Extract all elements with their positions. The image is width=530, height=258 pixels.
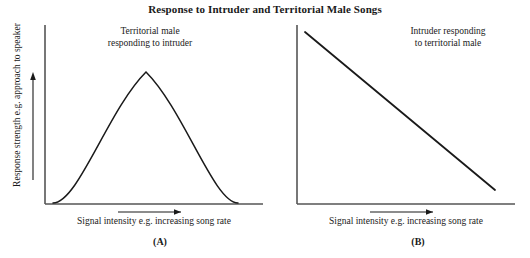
panel-a-curve bbox=[53, 72, 238, 203]
panel-b-annotation: Intruder responding to territorial male bbox=[368, 26, 528, 49]
panel-b-letter: (B) bbox=[398, 236, 438, 247]
panel-b-x-direction-arrow bbox=[370, 209, 433, 215]
panel-a-letter: (A) bbox=[140, 236, 180, 247]
figure-root: Response to Intruder and Territorial Mal… bbox=[0, 0, 530, 258]
panel-a-x-direction-arrow bbox=[118, 209, 181, 215]
panel-a-y-direction-arrow bbox=[30, 72, 36, 180]
panel-b: Intruder responding to territorial male … bbox=[278, 0, 530, 258]
panel-a-annotation: Territorial male responding to intruder bbox=[70, 26, 230, 49]
panel-b-curve bbox=[305, 32, 495, 190]
panel-a-x-axis-label: Signal intensity e.g. increasing song ra… bbox=[45, 216, 263, 226]
panel-a: Territorial male responding to intruder … bbox=[0, 0, 278, 258]
panel-b-x-axis-label: Signal intensity e.g. increasing song ra… bbox=[297, 216, 515, 226]
panel-a-y-axis-label: Response strength e.g. approach to speak… bbox=[12, 5, 22, 205]
